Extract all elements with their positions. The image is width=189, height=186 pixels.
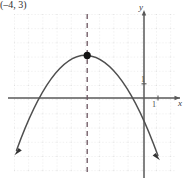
y-axis-tick-label-1: 1	[141, 76, 145, 84]
grid-area	[14, 14, 176, 172]
parabola-figure: (–4, 3) y x 1 1	[0, 0, 189, 186]
vertex-coordinate-label: (–4, 3)	[0, 0, 27, 10]
coordinate-plane-svg	[0, 0, 189, 186]
vertex-point-marker	[84, 52, 91, 59]
x-axis-tick-label-1: 1	[152, 101, 156, 109]
y-axis-label: y	[139, 3, 143, 12]
x-axis-label: x	[178, 99, 182, 108]
